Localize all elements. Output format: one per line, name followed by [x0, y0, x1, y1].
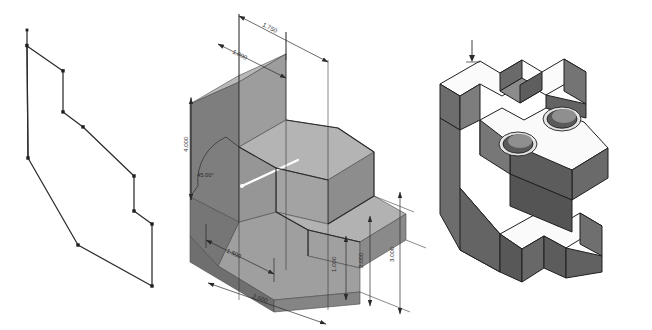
- ext-right-mid: [406, 240, 426, 248]
- highlight-endpoint: [240, 184, 244, 188]
- vertex-node: [25, 44, 28, 47]
- solid-svg: [424, 0, 652, 330]
- hole-back-right: [543, 107, 581, 131]
- vertex-node: [132, 174, 135, 177]
- drawing-canvas: 1.750 1.000 4.000 45.00° 1.500 2.500 1.0…: [0, 0, 652, 330]
- dimension-3000-right-label: 3.000: [388, 246, 395, 262]
- vertex-node: [76, 243, 79, 246]
- vertex-node: [61, 110, 64, 113]
- dimension-angle-label: 45.00°: [197, 172, 214, 178]
- wireframe-svg: [0, 0, 200, 330]
- wireframe-outline: [27, 46, 152, 286]
- dimension-2000-right-label: 2.000: [357, 252, 364, 268]
- hole-front-left: [499, 132, 537, 156]
- leader-tick-mark: [466, 40, 480, 62]
- dimension-1000-top-label: 1.000: [232, 48, 249, 62]
- vertex-node: [150, 284, 153, 287]
- vertex-node: [26, 29, 29, 32]
- vertex-node: [81, 125, 84, 128]
- dimension-1000-right-label: 1.000: [330, 256, 337, 272]
- vertex-node: [61, 69, 64, 72]
- face-base-right-block-top: [580, 213, 602, 256]
- wireframe-geometry: [27, 30, 152, 286]
- dimension-4000-label: 4.000: [182, 136, 189, 152]
- vertex-node: [26, 156, 29, 159]
- wireframe-vertices: [25, 29, 154, 288]
- face-base-column-front: [460, 188, 500, 272]
- wireframe-left-edge: [27, 46, 28, 158]
- ext-right-lower: [360, 292, 410, 312]
- face-top-right-side: [564, 59, 586, 104]
- dimensioned-svg: 1.750 1.000 4.000 45.00° 1.500 2.500 1.0…: [178, 0, 438, 330]
- vertex-node: [132, 209, 135, 212]
- solid-isometric-view: [424, 0, 652, 330]
- dimensioned-isometric-view: 1.750 1.000 4.000 45.00° 1.500 2.500 1.0…: [178, 0, 438, 330]
- vertex-node: [150, 222, 153, 225]
- solid-body: [440, 59, 608, 200]
- wireframe-profile-view: [0, 0, 200, 330]
